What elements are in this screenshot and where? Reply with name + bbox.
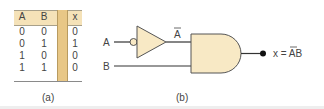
label-input-a: A <box>103 37 110 48</box>
output-var-b: B <box>296 48 303 59</box>
output-dot-icon <box>260 51 266 57</box>
and-gate-icon <box>191 34 241 73</box>
output-prefix: x = <box>273 48 289 59</box>
label-not-a: A <box>174 29 181 40</box>
logic-circuit: A B A x = AB <box>0 0 324 109</box>
output-expression: x = AB <box>273 48 303 59</box>
label-input-b: B <box>103 61 110 72</box>
inversion-bubble-icon <box>130 39 137 46</box>
not-gate-icon <box>137 26 166 58</box>
